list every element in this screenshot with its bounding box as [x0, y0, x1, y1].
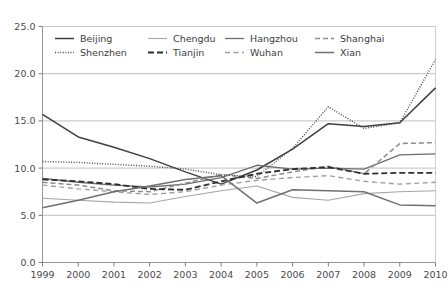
legend-label-shenzhen: Shenzhen — [80, 47, 127, 58]
legend-label-tianjin: Tianjin — [172, 47, 204, 58]
ytick-label: 25.0 — [14, 21, 35, 32]
ytick-label: 20.0 — [14, 68, 35, 79]
ytick-label: 15.0 — [14, 115, 35, 126]
xtick-label: 2004 — [209, 269, 233, 280]
legend: BeijingChengduHangzhouShanghaiShenzhenTi… — [55, 33, 384, 58]
xtick-label: 2009 — [388, 269, 412, 280]
line-chart: 0.05.010.015.020.025.0199920002001200220… — [0, 0, 448, 291]
legend-label-beijing: Beijing — [80, 33, 112, 44]
ytick-label: 5.0 — [20, 210, 35, 221]
ytick-label: 10.0 — [14, 163, 35, 174]
series-line-tianjin — [43, 167, 436, 190]
xtick-label: 2006 — [280, 269, 304, 280]
xtick-label: 2005 — [245, 269, 269, 280]
series-layer — [43, 60, 436, 208]
xtick-label: 1999 — [30, 269, 54, 280]
y-gridlines: 0.05.010.015.020.025.0 — [14, 21, 435, 268]
legend-label-shanghai: Shanghai — [340, 33, 384, 44]
xtick-label: 2001 — [102, 269, 126, 280]
xtick-label: 2007 — [316, 269, 340, 280]
series-line-shenzhen — [43, 60, 436, 177]
legend-label-hangzhou: Hangzhou — [250, 33, 298, 44]
xtick-label: 2008 — [352, 269, 376, 280]
x-ticks: 1999200020012002200320042005200620072008… — [30, 263, 447, 281]
series-line-xian — [43, 176, 436, 208]
xtick-label: 2000 — [66, 269, 90, 280]
ytick-label: 0.0 — [20, 257, 35, 268]
xtick-label: 2010 — [423, 269, 447, 280]
axes — [43, 27, 436, 263]
legend-label-wuhan: Wuhan — [250, 47, 283, 58]
legend-label-chengdu: Chengdu — [173, 33, 216, 44]
xtick-label: 2002 — [138, 269, 162, 280]
legend-label-xian: Xian — [340, 47, 361, 58]
series-line-beijing — [43, 88, 436, 184]
xtick-label: 2003 — [173, 269, 197, 280]
chart-canvas: 0.05.010.015.020.025.0199920002001200220… — [0, 0, 448, 291]
series-line-wuhan — [43, 176, 436, 195]
